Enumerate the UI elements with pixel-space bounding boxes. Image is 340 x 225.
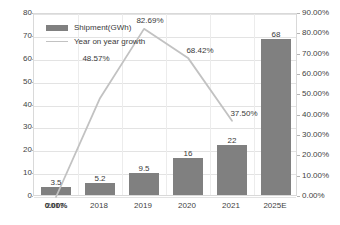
y-axis-left-tickmark — [30, 196, 33, 197]
line-swatch-icon — [46, 39, 68, 45]
bar-value-label: 22 — [210, 136, 254, 145]
legend-label-growth: Year on year growth — [74, 37, 145, 46]
y-axis-right-tick-label: 60.00% — [302, 69, 340, 78]
bar-value-label: 16 — [166, 149, 210, 158]
gridline — [34, 197, 296, 198]
y-axis-right-tick-label: 30.00% — [302, 130, 340, 139]
legend-item-shipment: Shipment(GWh) — [46, 23, 145, 32]
bar-swatch-icon — [46, 25, 68, 31]
x-axis-tick-label: 2019 — [121, 201, 165, 210]
x-axis-tick-label: 2025E — [253, 201, 297, 210]
legend-label-shipment: Shipment(GWh) — [74, 23, 131, 32]
x-axis-tick-label: 2018 — [77, 201, 121, 210]
y-axis-right-tick-label: 90.00% — [302, 8, 340, 17]
legend-item-growth: Year on year growth — [46, 37, 145, 46]
y-axis-left-tick-label: 20 — [6, 145, 32, 154]
y-axis-left-tick-label: 70 — [6, 31, 32, 40]
x-axis-tick-label: 2021 — [209, 201, 253, 210]
line-value-label: 37.50% — [222, 109, 266, 118]
y-axis-right-tick-label: 10.00% — [302, 171, 340, 180]
plot-area: 3.55.29.5162268 0.00%48.57%82.69%68.42%3… — [33, 13, 297, 196]
bar-value-label: 9.5 — [122, 164, 166, 173]
line-value-label: 68.42% — [178, 46, 222, 55]
line-value-label: 48.57% — [74, 54, 118, 63]
bar-value-label: 5.2 — [78, 174, 122, 183]
y-axis-right-tick-label: 80.00% — [302, 28, 340, 37]
y-axis-left-tick-label: 60 — [6, 54, 32, 63]
chart-legend: Shipment(GWh) Year on year growth — [46, 23, 145, 46]
y-axis-left-tick-label: 0 — [6, 191, 32, 200]
y-axis-right-tick-label: 0.00% — [302, 191, 340, 200]
y-axis-right-tick-label: 50.00% — [302, 89, 340, 98]
y-axis-right-tick-label: 40.00% — [302, 110, 340, 119]
y-axis-left-tick-label: 50 — [6, 77, 32, 86]
combo-chart: 01020304050607080 0.00%10.00%20.00%30.00… — [0, 0, 340, 225]
bar-value-label: 68 — [254, 30, 298, 39]
y-axis-left-tick-label: 80 — [6, 8, 32, 17]
y-axis-right-tick-label: 20.00% — [302, 150, 340, 159]
y-axis-left-tick-label: 30 — [6, 122, 32, 131]
x-axis-tick-label: 2017 — [33, 201, 77, 210]
x-axis-tick-label: 2020 — [165, 201, 209, 210]
bar-value-label: 3.5 — [34, 178, 78, 187]
y-axis-left-tick-label: 40 — [6, 100, 32, 109]
y-axis-left-tick-label: 10 — [6, 168, 32, 177]
y-axis-right-tick-label: 70.00% — [302, 49, 340, 58]
